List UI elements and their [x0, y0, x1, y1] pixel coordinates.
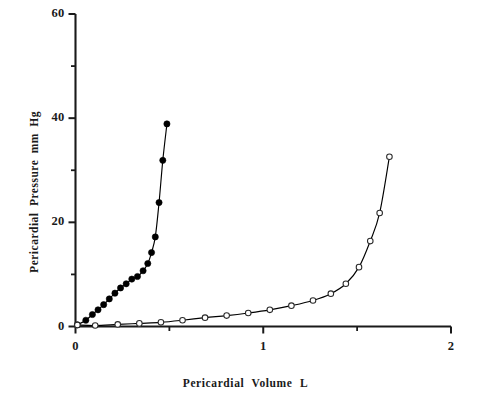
- filled-circle-marker: [160, 157, 166, 163]
- open-circle-marker: [224, 313, 230, 319]
- data-series-layer: [74, 121, 392, 328]
- open-circle-curve-line: [77, 157, 389, 326]
- open-circle-marker: [367, 238, 373, 244]
- filled-circle-marker: [89, 311, 95, 317]
- filled-circle-marker: [156, 199, 162, 205]
- open-circle-marker: [289, 303, 295, 309]
- y-tick-label: 0: [58, 319, 64, 334]
- x-tick-label: 1: [243, 339, 283, 354]
- x-tick-label: 0: [56, 339, 96, 354]
- y-tick-label: 60: [52, 6, 65, 21]
- open-circle-marker: [343, 281, 349, 287]
- y-tick-label: 40: [52, 110, 65, 125]
- filled-circle-marker: [134, 273, 140, 279]
- filled-circle-curve-line: [77, 124, 167, 325]
- open-circle-curve: [75, 154, 393, 328]
- filled-circle-marker: [101, 302, 107, 308]
- filled-circle-marker: [152, 234, 158, 240]
- open-circle-marker: [328, 291, 334, 297]
- y-tick-label: 20: [52, 214, 65, 229]
- filled-circle-marker: [148, 249, 154, 255]
- filled-circle-marker: [95, 307, 101, 313]
- open-circle-marker: [245, 310, 251, 316]
- open-circle-marker: [387, 154, 393, 160]
- y-axis-title: Pericardial Pressure mm Hg: [28, 82, 40, 302]
- open-circle-marker: [137, 321, 143, 327]
- x-axis-title: Pericardial Volume L: [0, 377, 491, 389]
- filled-circle-marker: [117, 285, 123, 291]
- open-circle-marker: [180, 317, 186, 323]
- open-circle-marker: [115, 322, 121, 328]
- open-circle-marker: [267, 307, 273, 313]
- filled-circle-marker: [83, 317, 89, 323]
- filled-circle-marker: [106, 296, 112, 302]
- filled-circle-marker: [129, 276, 135, 282]
- open-circle-marker: [377, 210, 383, 216]
- filled-circle-marker: [164, 121, 170, 127]
- open-circle-marker: [202, 315, 208, 321]
- filled-circle-marker: [112, 290, 118, 296]
- filled-circle-curve: [74, 121, 170, 328]
- filled-circle-marker: [140, 268, 146, 274]
- x-tick-label: 2: [431, 339, 471, 354]
- open-circle-marker: [310, 298, 316, 304]
- open-circle-marker: [92, 323, 98, 329]
- open-circle-marker: [158, 320, 164, 326]
- filled-circle-marker: [145, 260, 151, 266]
- pericardial-pressure-volume-figure: 0204060012 Pericardial Volume L Pericard…: [0, 0, 491, 414]
- open-circle-marker: [75, 322, 81, 328]
- open-circle-marker: [356, 264, 362, 270]
- filled-circle-marker: [123, 281, 129, 287]
